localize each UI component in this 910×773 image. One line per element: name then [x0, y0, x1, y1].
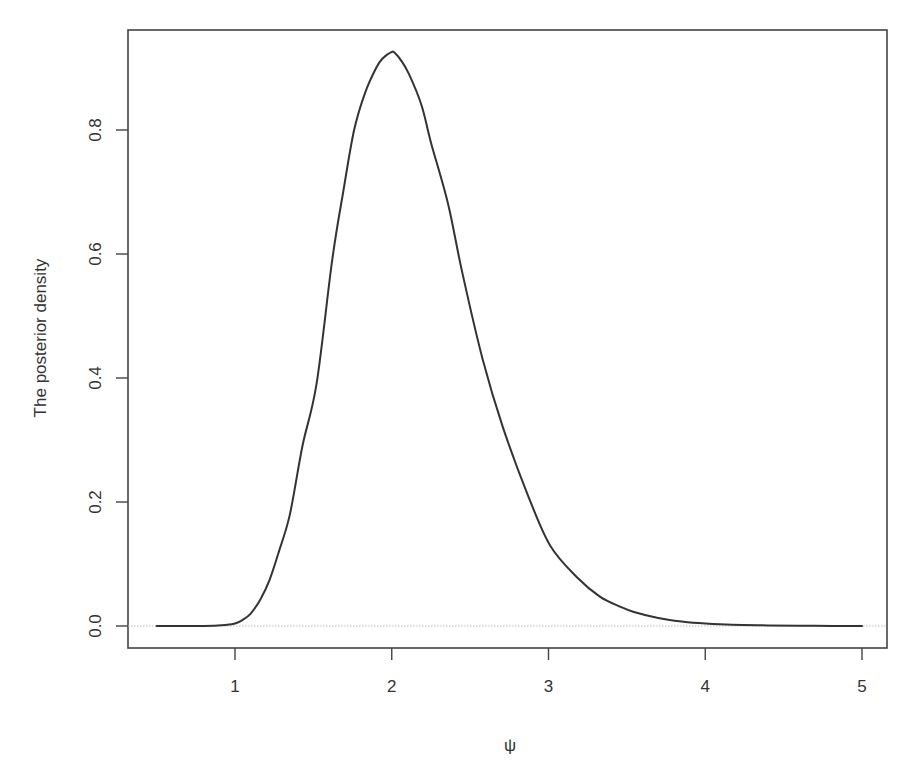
- x-tick-label: 5: [857, 677, 866, 696]
- y-tick-label: 0.8: [86, 118, 105, 142]
- x-tick-label: 3: [544, 677, 553, 696]
- x-tick-label: 1: [230, 677, 239, 696]
- y-tick-label: 0.4: [86, 366, 105, 390]
- x-axis-label: ψ: [504, 736, 516, 755]
- x-tick-label: 4: [701, 677, 710, 696]
- plot-frame: [128, 30, 887, 648]
- x-axis: 12345: [230, 648, 866, 696]
- density-line: [157, 51, 862, 626]
- density-curve: [157, 51, 862, 626]
- posterior-density-chart: 12345 0.00.20.40.60.8 ψ The posterior de…: [0, 0, 910, 773]
- plot-box: [128, 30, 887, 648]
- y-axis: 0.00.20.40.60.8: [86, 118, 128, 638]
- y-tick-label: 0.0: [86, 614, 105, 638]
- y-tick-label: 0.6: [86, 242, 105, 266]
- y-axis-label: The posterior density: [31, 258, 50, 417]
- y-tick-label: 0.2: [86, 490, 105, 514]
- x-tick-label: 2: [387, 677, 396, 696]
